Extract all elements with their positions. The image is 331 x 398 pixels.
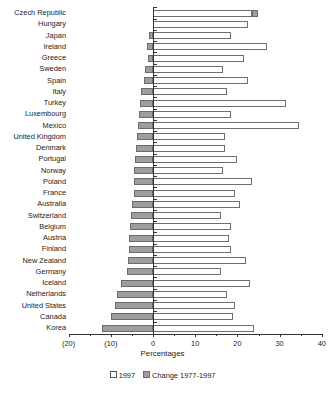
bar-1997 — [153, 145, 225, 152]
x-axis-minor-tick — [90, 334, 91, 336]
legend-swatch-1997-icon — [110, 371, 117, 378]
bar-change — [137, 133, 153, 140]
category-label: Australia — [37, 199, 66, 208]
category-label: New Zealand — [22, 256, 66, 265]
bar-change — [141, 88, 153, 95]
category-label: Turkey — [44, 98, 66, 107]
bar-change — [131, 212, 153, 219]
y-axis-tick — [153, 86, 157, 87]
y-axis-tick — [153, 7, 157, 8]
bar-1997 — [153, 246, 231, 253]
y-axis-tick — [153, 97, 157, 98]
bar-1997 — [153, 77, 248, 84]
bar-1997 — [153, 268, 221, 275]
bar-change — [115, 302, 153, 309]
bar-change — [144, 77, 153, 84]
x-axis-title: Percentages — [0, 349, 325, 358]
category-label: Ireland — [43, 42, 66, 51]
bar-change — [252, 10, 258, 17]
category-label: Iceland — [42, 278, 66, 287]
bar-change — [145, 66, 153, 73]
bar-1997 — [153, 235, 229, 242]
bar-change — [111, 313, 153, 320]
category-label: Switzerland — [28, 211, 66, 220]
y-axis-tick — [153, 311, 157, 312]
category-label: Spain — [47, 76, 66, 85]
category-label: France — [43, 188, 66, 197]
category-label: Austria — [43, 233, 66, 242]
category-label: Netherlands — [26, 289, 66, 298]
legend-label: 1997 — [119, 371, 135, 380]
category-label: Luxembourg — [25, 109, 66, 118]
y-axis-tick — [153, 210, 157, 211]
x-axis-tick — [195, 334, 196, 337]
bar-1997 — [153, 55, 244, 62]
x-axis-tick — [69, 334, 70, 337]
y-axis-tick — [153, 120, 157, 121]
y-axis-tick — [153, 277, 157, 278]
bar-change — [140, 100, 153, 107]
y-axis-tick — [153, 232, 157, 233]
bar-change — [135, 156, 153, 163]
bar-1997 — [153, 111, 231, 118]
x-axis-minor-tick — [301, 334, 302, 336]
category-label: Portugal — [38, 154, 66, 163]
category-label: Denmark — [36, 143, 66, 152]
bar-1997 — [153, 66, 223, 73]
category-label: Sweden — [39, 64, 66, 73]
bar-1997 — [153, 100, 286, 107]
y-axis-tick — [153, 64, 157, 65]
bar-1997 — [153, 178, 252, 185]
bar-1997 — [153, 156, 237, 163]
bar-change — [121, 280, 153, 287]
category-label: Germany — [36, 267, 66, 276]
y-axis-tick — [153, 221, 157, 222]
x-axis-tick — [322, 334, 323, 337]
bar-1997 — [153, 88, 227, 95]
y-axis-tick — [153, 322, 157, 323]
y-axis-tick — [153, 199, 157, 200]
legend-label: Change 1977-1997 — [152, 371, 215, 380]
y-axis-tick — [153, 300, 157, 301]
y-axis-tick — [153, 255, 157, 256]
bar-1997 — [153, 223, 231, 230]
x-axis-tick — [111, 334, 112, 337]
bar-1997 — [153, 280, 250, 287]
bar-1997 — [153, 167, 223, 174]
x-axis-minor-tick — [132, 334, 133, 336]
x-axis-tick — [153, 334, 154, 337]
y-axis-tick — [153, 266, 157, 267]
category-label: Norway — [41, 166, 66, 175]
legend-item: Change 1977-1997 — [143, 370, 215, 380]
x-axis-tick-label: 10 — [180, 339, 210, 348]
bar-1997 — [153, 212, 221, 219]
y-axis-tick — [153, 75, 157, 76]
bar-change — [139, 111, 153, 118]
bar-1997 — [153, 122, 299, 129]
bar-change — [136, 145, 153, 152]
category-label: Mexico — [43, 121, 66, 130]
bar-1997 — [153, 10, 252, 17]
bar-1997 — [153, 21, 248, 28]
x-axis-tick-label: 40 — [307, 339, 331, 348]
chart-legend: 1997Change 1977-1997 — [0, 370, 325, 380]
bar-change — [129, 235, 153, 242]
bar-1997 — [153, 302, 235, 309]
category-label: United Kingdom — [13, 132, 66, 141]
category-label: Hungary — [38, 19, 66, 28]
category-label: Greece — [42, 53, 66, 62]
y-axis-tick — [153, 244, 157, 245]
x-axis-tick-label: (20) — [54, 339, 84, 348]
y-axis-tick — [153, 165, 157, 166]
bar-change — [129, 246, 153, 253]
category-label: Belgium — [39, 222, 66, 231]
y-axis-tick — [153, 142, 157, 143]
x-axis-minor-tick — [259, 334, 260, 336]
bar-1997 — [153, 313, 233, 320]
bar-change — [128, 257, 153, 264]
category-label: Italy — [52, 87, 66, 96]
y-axis-tick — [153, 109, 157, 110]
y-axis-tick — [153, 30, 157, 31]
